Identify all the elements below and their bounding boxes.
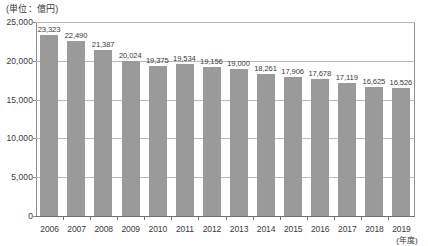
bar[interactable]: [67, 41, 85, 216]
x-tick-mark: [144, 217, 145, 220]
bar[interactable]: [203, 67, 221, 216]
bar-slot: 19,156: [198, 22, 225, 216]
bar-slot: 19,000: [226, 22, 253, 216]
x-tick-mark: [253, 217, 254, 220]
bar-chart: (単位：億円) 05,00010,00015,00020,00025,000 2…: [0, 0, 428, 246]
bar-slot: 16,526: [388, 22, 415, 216]
bar[interactable]: [176, 64, 194, 216]
x-tick-mark: [388, 217, 389, 220]
y-tick-label: 5,000: [0, 172, 33, 182]
x-tick-mark: [280, 217, 281, 220]
bar-value-label: 16,526: [381, 78, 421, 87]
y-tick-label: 0: [0, 211, 33, 221]
bar[interactable]: [149, 66, 167, 216]
bar-slot: 20,024: [117, 22, 144, 216]
y-tick-label: 10,000: [0, 133, 33, 143]
bar-slot: 17,906: [280, 22, 307, 216]
x-tick-mark: [361, 217, 362, 220]
x-tick-label: 2019: [381, 224, 421, 234]
unit-caption: (単位：億円): [6, 2, 58, 15]
bar[interactable]: [230, 69, 248, 216]
bar[interactable]: [365, 87, 383, 216]
bar-series: 23,32322,49021,38720,02419,37519,53419,1…: [36, 22, 415, 216]
bar-slot: 18,261: [253, 22, 280, 216]
bar[interactable]: [311, 79, 329, 216]
x-tick-mark: [226, 217, 227, 220]
x-tick-mark: [63, 217, 64, 220]
bar-slot: 17,678: [307, 22, 334, 216]
bar[interactable]: [94, 50, 112, 216]
bar[interactable]: [257, 74, 275, 216]
y-tick-label: 20,000: [0, 56, 33, 66]
bar[interactable]: [122, 61, 140, 216]
x-tick-mark: [171, 217, 172, 220]
x-tick-mark: [334, 217, 335, 220]
bar[interactable]: [284, 77, 302, 216]
bar-slot: 16,625: [361, 22, 388, 216]
bar-slot: 19,534: [171, 22, 198, 216]
bar-slot: 17,119: [334, 22, 361, 216]
y-tick-label: 15,000: [0, 95, 33, 105]
bar[interactable]: [338, 83, 356, 216]
x-tick-mark: [90, 217, 91, 220]
bar-slot: 22,490: [63, 22, 90, 216]
x-tick-mark: [117, 217, 118, 220]
x-axis-label: (年度): [386, 234, 428, 245]
bar-slot: 19,375: [144, 22, 171, 216]
x-tick-mark: [198, 217, 199, 220]
x-tick-mark: [307, 217, 308, 220]
bar-slot: 23,323: [36, 22, 63, 216]
bar[interactable]: [392, 88, 410, 216]
bar[interactable]: [40, 35, 58, 216]
